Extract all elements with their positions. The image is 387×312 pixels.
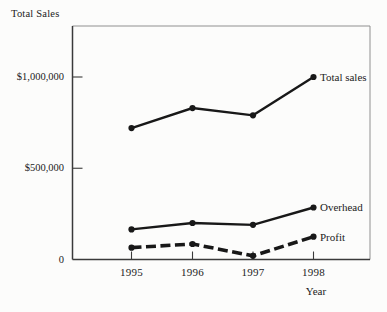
data-point-marker bbox=[310, 234, 316, 240]
x-tick-label: 1997 bbox=[231, 266, 275, 278]
y-tick-label: $1,000,000 bbox=[0, 70, 64, 84]
data-point-marker bbox=[128, 226, 134, 232]
data-point-marker bbox=[310, 74, 316, 80]
series-line-profit bbox=[132, 237, 314, 256]
x-tick-label: 1998 bbox=[292, 266, 336, 278]
series-line-total-sales bbox=[132, 77, 314, 128]
data-point-marker bbox=[128, 125, 134, 131]
x-tick-label: 1995 bbox=[110, 266, 154, 278]
x-tick-label: 1996 bbox=[171, 266, 215, 278]
series-line-overhead bbox=[132, 207, 314, 229]
x-axis-title: Year bbox=[306, 285, 326, 297]
data-point-marker bbox=[189, 105, 195, 111]
data-point-marker bbox=[250, 253, 256, 259]
data-point-marker bbox=[250, 112, 256, 118]
data-point-marker bbox=[250, 222, 256, 228]
data-point-marker bbox=[310, 204, 316, 210]
data-point-marker bbox=[189, 220, 195, 226]
data-point-marker bbox=[128, 245, 134, 251]
y-tick-label: 0 bbox=[0, 253, 64, 267]
series-label-overhead: Overhead bbox=[320, 199, 363, 215]
y-axis-title: Total Sales bbox=[11, 8, 59, 19]
data-point-marker bbox=[189, 241, 195, 247]
series-label-profit: Profit bbox=[320, 229, 345, 245]
sales-line-chart: Total Sales Year 0$500,000$1,000,0001995… bbox=[0, 0, 387, 312]
y-tick-label: $500,000 bbox=[0, 161, 64, 175]
series-label-total-sales: Total sales bbox=[320, 69, 367, 85]
